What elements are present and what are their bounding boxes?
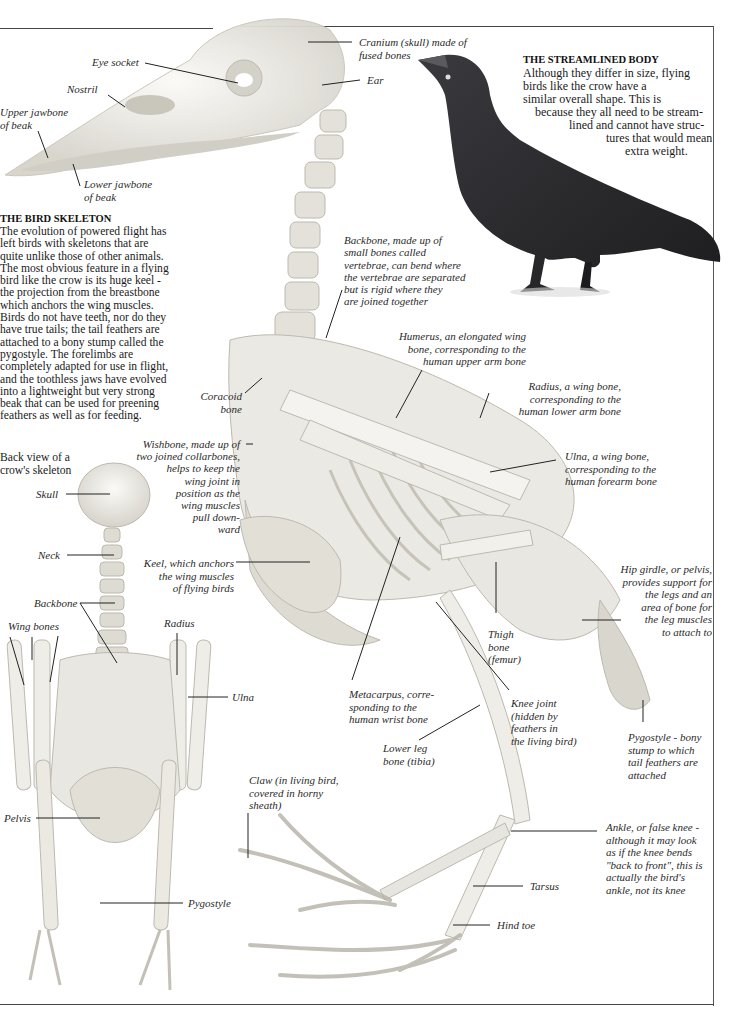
label-ulna-back: Ulna: [232, 691, 254, 704]
label-hip-girdle: Hip girdle, or pelvis, provides support …: [600, 563, 712, 638]
streamlined-line: tures that would mean: [523, 132, 718, 145]
label-metacarpus: Metacarpus, corre- sponding to the human…: [349, 688, 434, 726]
encyclopedia-page: THE STREAMLINED BODY Although they diffe…: [0, 0, 733, 1013]
label-claw: Claw (in living bird, covered in horny s…: [249, 774, 338, 812]
label-humerus: Humerus, an elongated wing bone, corresp…: [384, 330, 526, 368]
label-upper-jawbone: Upper jawbone of beak: [0, 106, 68, 131]
label-knee-joint: Knee joint (hidden by feathers in the li…: [511, 697, 577, 747]
label-nostril: Nostril: [67, 83, 98, 96]
label-backbone-back: Backbone: [34, 597, 77, 610]
label-skull-back: Skull: [36, 488, 58, 501]
side-body: [229, 335, 650, 940]
label-neck-back: Neck: [38, 549, 60, 562]
label-pygostyle: Pygostyle - bony stump to which tail fea…: [628, 731, 701, 781]
label-ear: Ear: [367, 74, 384, 87]
label-hind-toe: Hind toe: [497, 919, 535, 932]
neck-vertebrae: [275, 110, 346, 342]
label-lower-jawbone: Lower jawbone of beak: [84, 178, 152, 203]
label-wishbone: Wishbone, made up of two joined collarbo…: [120, 438, 240, 536]
bird-skeleton-text: The evolution of powered flight has left…: [0, 226, 170, 423]
label-ankle: Ankle, or false knee - although it may l…: [606, 821, 703, 896]
back-view-caption: Back view of a crow's skeleton: [0, 452, 71, 477]
label-radius: Radius, a wing bone, corresponding to th…: [491, 380, 621, 418]
side-skull: [5, 19, 344, 176]
label-tarsus: Tarsus: [530, 880, 559, 893]
streamlined-text: Although they differ in size, flying bir…: [523, 67, 718, 158]
label-keel: Keel, which anchors the wing muscles of …: [122, 557, 234, 595]
back-view-skeleton: [7, 463, 211, 990]
label-eye-socket: Eye socket: [92, 56, 139, 69]
label-backbone: Backbone, made up of small bones called …: [344, 234, 465, 308]
feet: [240, 815, 460, 977]
label-radius-back: Radius: [164, 617, 195, 630]
streamlined-line: extra weight.: [523, 145, 718, 158]
label-pelvis-back: Pelvis: [4, 812, 31, 825]
label-wing-bones-back: Wing bones: [8, 620, 59, 633]
streamlined-heading: THE STREAMLINED BODY: [523, 54, 659, 65]
label-pygostyle-back: Pygostyle: [188, 897, 231, 910]
label-lower-leg: Lower leg bone (tibia): [383, 742, 435, 767]
label-coracoid: Coracoid bone: [186, 390, 242, 415]
bird-skeleton-heading: THE BIRD SKELETON: [0, 213, 111, 224]
label-cranium: Cranium (skull) made of fused bones: [359, 36, 467, 61]
label-ulna: Ulna, a wing bone, corresponding to the …: [565, 450, 657, 488]
label-thigh-bone: Thigh bone (femur): [488, 628, 521, 666]
